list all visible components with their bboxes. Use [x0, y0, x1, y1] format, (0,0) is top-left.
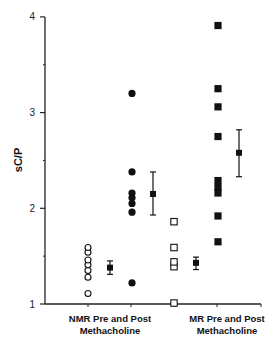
open-circle-point — [85, 290, 91, 296]
x-label-nmr-line2: Methacholine — [80, 325, 141, 336]
filled-circle-point — [128, 168, 135, 175]
filled-square-point — [214, 22, 221, 29]
dot-plot-chart: 1234 sC/P NMR Pre and Post Methacholine … — [0, 0, 275, 346]
y-axis-title: sC/P — [12, 148, 24, 172]
plot-points — [85, 22, 242, 306]
open-circle-point — [85, 268, 91, 274]
y-tick-label: 3 — [29, 107, 35, 118]
mean-marker — [193, 260, 199, 266]
filled-square-point — [214, 177, 221, 184]
y-tick-label: 2 — [29, 203, 35, 214]
open-square-point — [171, 244, 177, 250]
filled-square-point — [214, 184, 221, 191]
y-tick-label: 4 — [29, 11, 35, 22]
x-label-nmr-line1: NMR Pre and Post — [69, 313, 152, 324]
x-label-mr-line2: Methacholine — [197, 325, 258, 336]
mean-marker — [236, 150, 242, 156]
filled-circle-point — [128, 90, 135, 97]
y-axis: 1234 sC/P — [12, 11, 45, 309]
filled-square-point — [214, 103, 221, 110]
mean-marker — [150, 191, 156, 197]
y-ticks: 1234 — [29, 11, 45, 309]
filled-circle-point — [128, 209, 135, 216]
filled-square-point — [214, 212, 221, 219]
x-axis: NMR Pre and Post Methacholine MR Pre and… — [45, 304, 266, 336]
open-circle-point — [85, 274, 91, 280]
open-square-point — [171, 300, 177, 306]
filled-circle-point — [128, 189, 135, 196]
open-circle-point — [85, 245, 91, 251]
mean-marker — [107, 265, 113, 271]
open-square-point — [171, 218, 177, 224]
filled-square-point — [214, 133, 221, 140]
filled-circle-point — [128, 279, 135, 286]
y-tick-label: 1 — [29, 299, 35, 310]
open-square-point — [171, 259, 177, 265]
filled-square-point — [214, 238, 221, 245]
x-label-mr-line1: MR Pre and Post — [189, 313, 265, 324]
open-circle-point — [85, 257, 91, 263]
filled-square-point — [214, 85, 221, 92]
